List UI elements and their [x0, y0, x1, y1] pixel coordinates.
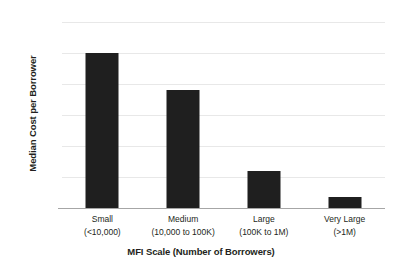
bar-series — [62, 22, 385, 208]
bar[interactable] — [86, 53, 119, 208]
x-axis-tick-label: Small(<10,000) — [62, 213, 143, 238]
bar-chart-figure: Median Cost per Borrower $0$50$100$150$2… — [0, 0, 402, 266]
x-axis-tick-label: Large(100K to 1M) — [224, 213, 305, 238]
bar[interactable] — [247, 171, 280, 208]
x-tick-label-range: (<10,000) — [62, 226, 143, 239]
x-tick-label-primary: Small — [92, 214, 113, 224]
bar[interactable] — [167, 90, 200, 208]
x-tick-label-primary: Medium — [168, 214, 198, 224]
x-tick-label-range: (100K to 1M) — [224, 226, 305, 239]
plot-area — [62, 22, 385, 208]
bar-slot — [304, 22, 385, 208]
x-axis-tick-label: Medium(10,000 to 100K) — [143, 213, 224, 238]
x-axis-title: MFI Scale (Number of Borrowers) — [0, 246, 402, 257]
bar[interactable] — [328, 197, 361, 208]
x-tick-label-range: (10,000 to 100K) — [143, 226, 224, 239]
bar-slot — [62, 22, 143, 208]
x-axis-line — [58, 208, 385, 210]
y-axis-title: Median Cost per Borrower — [27, 24, 38, 204]
bar-slot — [224, 22, 305, 208]
x-tick-label-primary: Large — [253, 214, 275, 224]
x-tick-label-range: (>1M) — [304, 226, 385, 239]
x-axis-tick-label: Very Large(>1M) — [304, 213, 385, 238]
x-tick-label-primary: Very Large — [324, 214, 365, 224]
bar-slot — [143, 22, 224, 208]
x-axis-tick-labels: Small(<10,000)Medium(10,000 to 100K)Larg… — [62, 213, 385, 245]
